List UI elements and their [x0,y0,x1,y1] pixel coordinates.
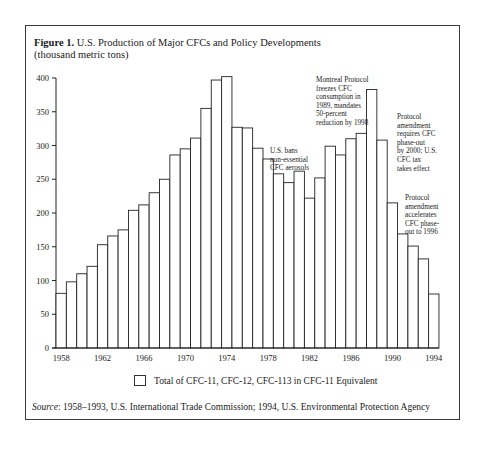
bar-1971 [191,138,201,348]
bar-1993 [418,259,428,348]
bar-1958 [56,293,66,348]
annotation-line: amendment [397,122,437,131]
annotation-line: reduction by 1998 [316,119,369,128]
annotation-line: accelerates [405,211,439,220]
bar-1989 [377,140,387,348]
annotation-line: CFC phase- [405,220,439,229]
legend: Total of CFC-11, CFC-12, CFC-113 in CFC-… [134,375,377,386]
y-tick-label: 300 [36,141,49,151]
annotation-line: by 2000; U.S. [397,147,437,156]
y-tick-label: 200 [36,208,49,218]
x-tick-label: 1966 [135,353,152,363]
annotation-line: consumption in [316,93,369,102]
bar-1969 [170,155,180,348]
annotation-line: CFC tax [397,156,437,165]
bar-1962 [97,245,107,348]
x-tick-label: 1974 [218,353,236,363]
bar-1959 [66,282,76,348]
legend-swatch [134,375,146,386]
annotation-amendment-1996: ProtocolamendmentacceleratesCFC phase-ou… [405,194,439,237]
bar-1967 [149,193,159,348]
annotation-line: Protocol [397,113,437,122]
annotation-montreal-protocol: Montreal Protocolfreezes CFCconsumption … [316,76,369,128]
bar-1968 [160,179,170,348]
y-tick-label: 50 [41,309,50,319]
bar-1981 [294,171,304,348]
bar-1991 [398,234,408,348]
bar-1975 [232,127,242,348]
annotation-amendment-2000: Protocolamendmentrequires CFCphase-outby… [397,113,437,173]
bar-1978 [263,159,273,348]
x-tick-label: 1986 [342,353,359,363]
annotation-line: U.S. bans [270,147,309,156]
bar-1983 [315,178,325,348]
bar-1976 [242,128,252,348]
bar-1990 [387,203,397,348]
annotation-aerosol-ban: U.S. bansnon-essentialCFC aerosols [270,147,309,173]
x-tick-label: 1958 [53,353,70,363]
y-tick-label: 0 [45,343,49,353]
legend-label: Total of CFC-11, CFC-12, CFC-113 in CFC-… [154,376,377,386]
bar-1973 [211,80,221,348]
bar-1964 [118,230,128,348]
y-tick-label: 350 [36,107,49,117]
annotation-line: requires CFC [397,130,437,139]
bar-1965 [128,210,138,348]
bar-1985 [335,155,345,348]
annotation-line: freezes CFC [316,85,369,94]
source-prefix: Source [32,402,58,412]
bar-1960 [77,274,87,348]
bar-1963 [108,236,118,348]
bar-1994 [429,294,439,348]
bar-1992 [408,246,418,348]
bar-1979 [273,174,283,348]
annotation-line: Montreal Protocol [316,76,369,85]
annotation-line: 1989, mandates [316,102,369,111]
y-tick-label: 400 [36,73,49,83]
y-tick-label: 150 [36,242,49,252]
bar-1970 [180,149,190,348]
x-tick-label: 1962 [94,353,111,363]
source-note: Source: 1958–1993, U.S. International Tr… [32,402,430,412]
source-text: : 1958–1993, U.S. International Trade Co… [58,402,430,412]
x-tick-label: 1978 [260,353,277,363]
bar-1984 [325,146,335,348]
bar-1966 [139,205,149,348]
y-tick-label: 100 [36,276,49,286]
annotation-line: non-essential [270,156,309,165]
x-tick-label: 1970 [177,353,194,363]
x-tick-label: 1990 [384,353,401,363]
x-tick-label: 1994 [425,353,443,363]
bar-1977 [253,148,263,348]
bar-1986 [346,139,356,348]
bar-1980 [284,183,294,348]
bar-1987 [356,133,366,348]
bar-1982 [304,198,314,348]
annotation-line: amendment [405,203,439,212]
bar-1961 [87,266,97,348]
annotation-line: 50-percent [316,110,369,119]
x-tick-label: 1982 [301,353,318,363]
bar-1988 [367,89,377,348]
annotation-line: Protocol [405,194,439,203]
y-tick-label: 250 [36,174,49,184]
bar-1974 [222,77,232,348]
annotation-line: out to 1996 [405,228,439,237]
annotation-line: takes effect [397,165,437,174]
annotation-line: phase-out [397,139,437,148]
annotation-line: CFC aerosols [270,164,309,173]
bar-1972 [201,108,211,348]
